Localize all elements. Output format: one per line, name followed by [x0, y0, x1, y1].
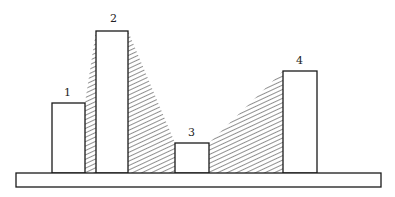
- bar-1: [52, 103, 85, 173]
- hatch-region-3-4: [209, 71, 283, 173]
- diagram-canvas: 1 2 3 4: [0, 0, 395, 197]
- label-4: 4: [296, 54, 303, 67]
- hatch-region-2-3: [128, 31, 175, 173]
- bar-4: [283, 71, 317, 173]
- label-2: 2: [110, 12, 117, 25]
- label-3: 3: [188, 126, 195, 139]
- hatch-region-1-2: [85, 31, 96, 173]
- bar-3: [175, 143, 209, 173]
- bar-2: [96, 31, 128, 173]
- base-plate: [16, 173, 381, 187]
- label-1: 1: [64, 86, 71, 99]
